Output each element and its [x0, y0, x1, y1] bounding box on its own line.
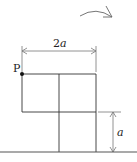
point-p-marker: [20, 72, 24, 76]
height-label: a: [117, 126, 124, 139]
rotation-arrow-icon: [80, 6, 112, 17]
point-p-label: P: [13, 62, 21, 75]
diagram-canvas: 2a P a: [0, 0, 137, 162]
block-shape: [22, 74, 96, 152]
width-label: 2a: [53, 37, 67, 50]
